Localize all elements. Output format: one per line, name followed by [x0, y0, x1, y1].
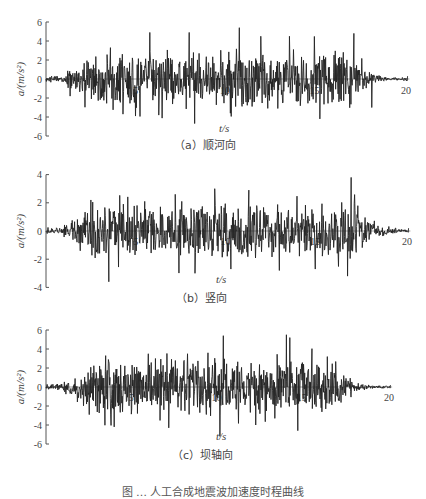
y-tick-label: -6	[34, 439, 42, 450]
y-tick-label: 6	[37, 325, 42, 336]
y-tick-label: 4	[37, 344, 42, 355]
figure-caption: 图 … 人工合成地震波加速度时程曲线	[0, 483, 426, 499]
acceleration-trace	[46, 335, 390, 437]
x-axis-label: t/s	[216, 430, 226, 442]
y-tick-label: -2	[34, 401, 42, 412]
y-axis-label: a/(m/s²)	[14, 369, 27, 404]
y-tick-label: -4	[34, 420, 42, 431]
y-tick-label: 0	[37, 382, 42, 393]
subplot-caption: （c）坝轴向	[172, 446, 233, 462]
y-tick-label: 2	[37, 363, 42, 374]
x-tick-label: 20	[384, 392, 394, 403]
